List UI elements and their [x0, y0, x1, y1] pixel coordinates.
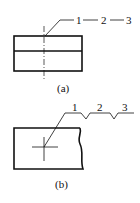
label-b-1: 1: [72, 101, 78, 113]
part-outline-a: [14, 36, 82, 71]
leader-line-a: [45, 20, 74, 36]
label-a-3: 3: [126, 14, 132, 26]
caption-b: (b): [55, 178, 68, 191]
figure-b: 1 2 3 (b): [14, 101, 134, 191]
figure-a: 1 2 3 (a): [14, 14, 132, 95]
label-a-1: 1: [76, 14, 82, 26]
leader-line-b: [44, 113, 134, 147]
label-a-2: 2: [101, 14, 107, 26]
label-b-3: 3: [122, 101, 128, 113]
part-outline-b: [14, 128, 83, 169]
caption-a: (a): [57, 82, 70, 95]
label-b-2: 2: [97, 101, 103, 113]
diagram-canvas: 1 2 3 (a) 1 2 3 (b): [0, 0, 140, 203]
